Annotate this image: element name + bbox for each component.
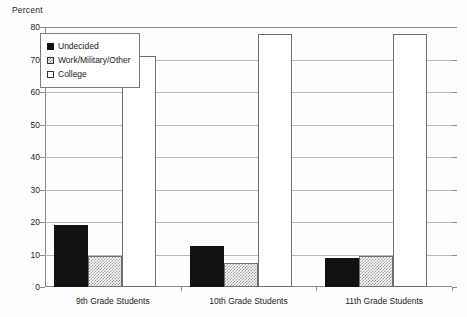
y-tick-mark-right [452,92,457,93]
x-tick-mark [316,287,317,291]
gridline [45,222,452,223]
gridline [45,27,452,28]
y-tick-mark-right [452,27,457,28]
y-tick-mark-right [452,255,457,256]
bar-college [258,34,292,288]
x-axis-label: 11th Grade Students [345,296,423,306]
x-axis-label: 9th Grade Students [76,296,150,306]
legend-swatch-undecided-icon [47,43,54,50]
legend-swatch-work-military-other-icon [47,57,54,64]
x-tick-mark [452,287,453,291]
legend-item-college: College [47,68,131,81]
bar-undecided [190,246,224,287]
y-tick-label: 80 [31,22,40,32]
y-tick-mark [40,190,45,191]
y-tick-label: 40 [31,152,40,162]
bar-work-military-other [88,256,122,287]
y-axis-tick-labels: 01020304050607080 [0,0,40,317]
y-tick-mark-right [452,125,457,126]
legend-item-undecided: Undecided [47,40,131,53]
bar-undecided [54,225,88,287]
gridline [45,190,452,191]
y-tick-mark-right [452,157,457,158]
bar-work-military-other [359,256,393,287]
legend: Undecided Work/Military/Other College [40,33,140,88]
y-tick-mark [40,222,45,223]
bar-undecided [325,258,359,287]
y-tick-label: 70 [31,55,40,65]
legend-label-work-military-other: Work/Military/Other [58,56,131,65]
bar-work-military-other [224,263,258,287]
y-tick-mark-right [452,222,457,223]
legend-item-work-military-other: Work/Military/Other [47,54,131,67]
y-tick-label: 60 [31,87,40,97]
y-tick-mark [40,255,45,256]
y-tick-mark-right [452,190,457,191]
x-tick-mark [181,287,182,291]
x-axis-label: 10th Grade Students [209,296,287,306]
legend-label-college: College [58,70,87,79]
gridline [45,125,452,126]
y-tick-label: 10 [31,250,40,260]
y-tick-mark [40,125,45,126]
y-tick-mark [40,92,45,93]
y-tick-mark [40,27,45,28]
bar-college [122,56,156,287]
y-tick-mark [40,287,45,288]
bar-college [393,34,427,288]
y-tick-label: 50 [31,120,40,130]
gridline [45,92,452,93]
bar-chart: Percent 01020304050607080 9th Grade Stud… [0,0,467,317]
y-tick-mark-right [452,60,457,61]
y-tick-label: 30 [31,185,40,195]
legend-swatch-college-icon [47,71,54,78]
y-tick-label: 20 [31,217,40,227]
gridline [45,157,452,158]
legend-label-undecided: Undecided [58,42,99,51]
y-tick-mark [40,157,45,158]
